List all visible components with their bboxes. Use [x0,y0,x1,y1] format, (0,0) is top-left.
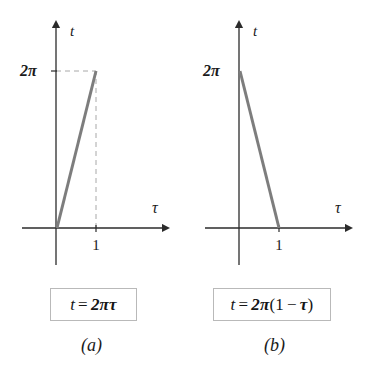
formula-b-minus: − [284,295,300,315]
formula-a-variable: τ [109,295,117,315]
formula-box-a: t=2πτ [50,288,137,321]
y-tick-label-2pi-a: 2π [20,63,37,79]
formula-b-one: 1 [275,295,284,315]
curve-b [240,71,279,228]
x-axis-label-a: τ [152,200,158,216]
x-tick-label-1-a: 1 [88,238,104,253]
figure-container: t τ 2π 1 t=2πτ (a) [0,0,366,376]
y-axis-label-a: t [70,24,74,39]
formula-b-coefficient: 2π [251,295,269,315]
x-axis-label-b: τ [335,200,341,216]
formula-box-b: t=2π(1−τ) [213,288,331,321]
curve-a [57,71,96,228]
panel-a: t τ 2π 1 t=2πτ (a) [0,0,183,376]
formula-b-equals: = [235,295,251,315]
caption-b: (b) [183,336,366,354]
caption-a: (a) [0,336,183,354]
x-tick-label-1-b: 1 [271,238,287,253]
y-tick-label-2pi-b: 2π [203,63,220,79]
panel-b: t τ 2π 1 t=2π(1−τ) (b) [183,0,366,376]
formula-a-coefficient: 2π [91,295,109,315]
formula-a-equals: = [75,295,91,315]
formula-b-close-paren: ) [308,295,314,315]
formula-b-variable: τ [300,295,308,315]
y-axis-label-b: t [253,24,257,39]
